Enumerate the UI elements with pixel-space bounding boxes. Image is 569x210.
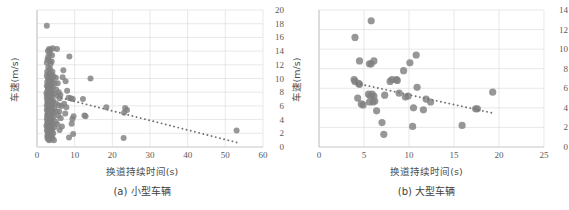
scatter-point [60, 74, 66, 80]
caption-b: (b) 大型车辆 [284, 183, 569, 198]
scatter-point [409, 123, 416, 130]
scatter-point [66, 134, 72, 140]
x-tick-label: 40 [183, 151, 192, 160]
y-tick-label: 8 [536, 64, 568, 73]
scatter-point [387, 78, 394, 85]
x-axis-title-b: 换道持续时间(s) [284, 164, 569, 178]
x-tick-label: 50 [221, 151, 230, 160]
scatter-point [58, 115, 64, 121]
scatter-point [394, 77, 401, 84]
scatter-point [380, 131, 387, 138]
y-tick-label: 20 [250, 6, 284, 15]
scatter-point [356, 57, 363, 64]
x-tick-label: 0 [317, 151, 322, 160]
y-tick-label: 18 [250, 19, 284, 28]
scatter-point [55, 80, 61, 86]
scatter-point [378, 119, 385, 126]
scatter-point [489, 89, 496, 96]
scatter-point [373, 107, 380, 114]
scatter-point [405, 93, 412, 100]
scatter-point [371, 97, 378, 104]
scatter-point [121, 110, 127, 116]
scatter-point [420, 106, 427, 113]
y-tick-label: 12 [250, 60, 284, 69]
scatter-point [66, 54, 72, 60]
x-tick-label: 5 [362, 151, 367, 160]
scatter-point [360, 101, 367, 108]
caption-a: (a) 小型车辆 [0, 183, 284, 198]
scatter-point [413, 51, 420, 58]
x-tick-label: 10 [70, 151, 79, 160]
scatter-point [44, 23, 50, 29]
scatter-point [410, 104, 417, 111]
x-axis-title-a: 换道持续时间(s) [0, 164, 284, 178]
scatter-point [400, 67, 407, 74]
x-tick-label: 0 [35, 151, 40, 160]
y-tick-label: 4 [536, 103, 568, 112]
scatter-point [60, 67, 66, 73]
scatter-point [61, 101, 67, 107]
x-tick-label: 30 [146, 151, 155, 160]
y-axis-title-a: 车速(m/s) [6, 11, 20, 148]
x-tick-label: 20 [495, 151, 504, 160]
scatter-point [54, 46, 60, 52]
y-tick-label: 6 [250, 101, 284, 110]
scatter-point [406, 59, 413, 66]
y-tick-label: 12 [536, 25, 568, 34]
scatter-canvas-a [0, 0, 284, 166]
chart-b: 02468101214 0510152025 [284, 0, 568, 166]
scatter-point [368, 17, 375, 24]
figure-container: 02468101214161820 0102030405060 车速(m/s) … [0, 0, 569, 210]
scatter-point [370, 57, 377, 64]
scatter-point [414, 84, 421, 91]
x-tick-label: 20 [108, 151, 117, 160]
scatter-point [62, 110, 68, 116]
y-tick-label: 2 [250, 129, 284, 138]
y-tick-label: 2 [536, 123, 568, 132]
scatter-point [80, 96, 86, 102]
scatter-point [51, 137, 57, 143]
chart-a: 02468101214161820 0102030405060 [0, 0, 284, 166]
x-tick-label: 15 [450, 151, 459, 160]
scatter-point [69, 121, 75, 127]
scatter-point [459, 122, 466, 129]
y-axis-title-b: 车速(m/s) [288, 11, 302, 148]
y-tick-label: 6 [536, 84, 568, 93]
scatter-point [351, 34, 358, 41]
panel-b: 02468101214 0510152025 车速(m/s) 换道持续时间(s)… [284, 0, 569, 210]
panel-a: 02468101214161820 0102030405060 车速(m/s) … [0, 0, 284, 210]
x-tick-label: 10 [405, 151, 414, 160]
y-tick-label: 16 [250, 33, 284, 42]
scatter-point [59, 123, 65, 129]
y-tick-label: 14 [536, 6, 568, 15]
scatter-point [57, 92, 63, 98]
x-tick-label: 25 [540, 151, 549, 160]
y-tick-label: 10 [250, 74, 284, 83]
scatter-point [381, 92, 388, 99]
scatter-point [64, 88, 70, 94]
scatter-point [87, 76, 93, 82]
x-tick-label: 60 [259, 151, 268, 160]
y-tick-label: 10 [536, 45, 568, 54]
y-tick-label: 14 [250, 47, 284, 56]
y-tick-label: 8 [250, 88, 284, 97]
y-tick-label: 4 [250, 115, 284, 124]
scatter-canvas-b [284, 0, 569, 166]
scatter-point [56, 108, 62, 114]
scatter-point [83, 113, 89, 119]
scatter-point [103, 104, 109, 110]
scatter-point [234, 128, 240, 134]
scatter-point [121, 135, 127, 141]
